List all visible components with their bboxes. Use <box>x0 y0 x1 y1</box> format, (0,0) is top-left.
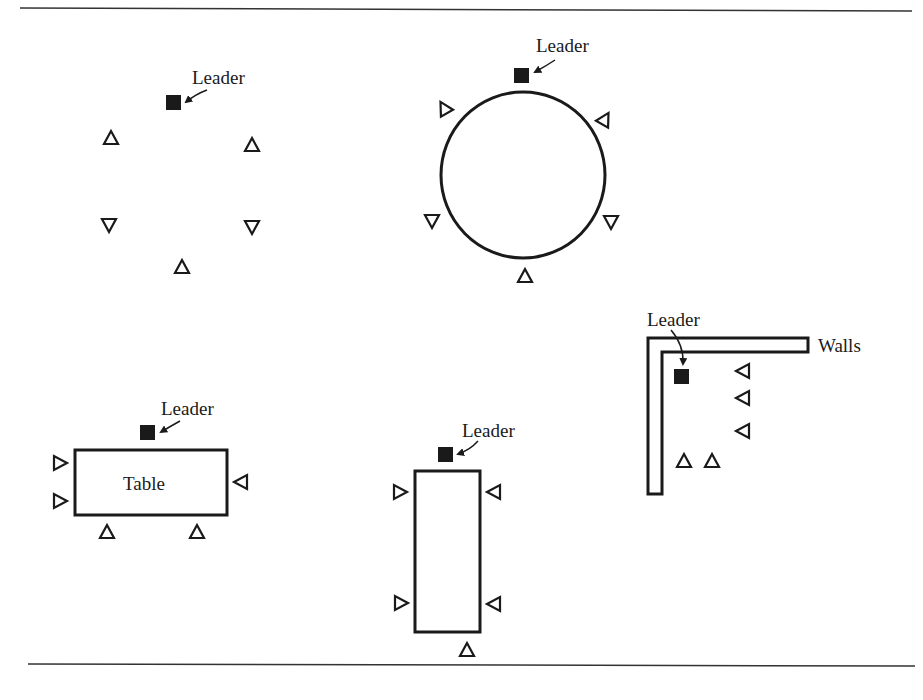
member-triangle-icon <box>705 454 719 467</box>
member-triangle-icon <box>245 138 259 151</box>
member-triangle-icon <box>736 364 749 378</box>
member-triangle-icon <box>102 219 116 232</box>
arrangement-horizontal-table: Leader Table <box>54 398 247 538</box>
leader-marker <box>140 425 155 440</box>
leader-marker <box>438 447 453 462</box>
member-triangle-icon <box>104 131 118 144</box>
member-triangle-icon <box>54 456 67 470</box>
member-triangle-icon <box>434 98 453 116</box>
leader-marker <box>514 68 529 83</box>
member-triangle-icon <box>736 391 749 405</box>
member-triangle-icon <box>234 475 247 489</box>
member-triangle-icon <box>190 525 204 538</box>
member-triangle-icon <box>487 485 500 499</box>
member-triangle-icon <box>425 215 439 228</box>
member-triangle-icon <box>175 260 189 273</box>
leader-arrow-icon <box>535 60 555 72</box>
member-triangle-icon <box>487 597 500 611</box>
member-triangle-icon <box>395 596 408 610</box>
member-triangle-icon <box>245 221 259 234</box>
arrangement-circle: Leader <box>425 35 618 282</box>
bottom-rule <box>28 664 915 666</box>
leader-label: Leader <box>536 35 589 56</box>
arrangement-corner-walls: Walls Leader <box>647 309 861 494</box>
leader-marker <box>166 95 181 110</box>
leader-arrow-icon <box>458 441 478 454</box>
leader-label: Leader <box>192 67 245 88</box>
member-triangle-icon <box>460 643 474 656</box>
leader-arrow-icon <box>161 421 180 432</box>
leader-marker <box>674 369 689 384</box>
member-triangle-icon <box>54 494 67 508</box>
arrangement-open-circle: Leader <box>102 67 259 273</box>
table-rectangle <box>415 471 480 632</box>
member-triangle-icon <box>100 525 114 538</box>
arrangement-vertical-table: Leader <box>394 420 515 656</box>
member-triangle-icon <box>677 454 691 467</box>
table-label: Table <box>123 473 165 494</box>
member-triangle-icon <box>736 424 749 438</box>
leader-label: Leader <box>462 420 515 441</box>
leader-label: Leader <box>647 309 700 330</box>
leader-arrow-icon <box>186 90 207 102</box>
leader-arrow-icon <box>671 330 683 364</box>
walls-label: Walls <box>818 335 861 356</box>
member-triangle-icon <box>394 485 407 499</box>
walls-shape <box>648 338 808 494</box>
top-rule <box>20 8 912 11</box>
seating-arrangements-diagram: Leader Leader Leader Table Leader <box>0 0 923 700</box>
round-table <box>441 92 605 258</box>
member-triangle-icon <box>596 109 615 127</box>
member-triangle-icon <box>518 269 532 282</box>
leader-label: Leader <box>161 398 214 419</box>
member-triangle-icon <box>604 216 618 229</box>
